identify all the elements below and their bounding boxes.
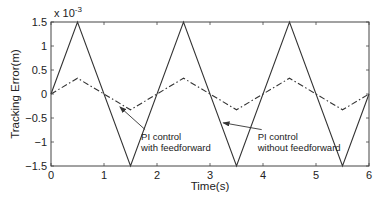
y-tick-label: 0.5 xyxy=(32,64,47,76)
x-tick-label: 2 xyxy=(154,169,160,181)
chart: 01234561.510.50−0.5−1−1.5 PI controlwith… xyxy=(0,0,387,200)
axes-layer: 01234561.510.50−0.5−1−1.5 xyxy=(25,16,372,181)
x-tick-label: 6 xyxy=(366,169,372,181)
annotation-arrow xyxy=(120,107,145,130)
y-tick-label: 1.5 xyxy=(32,16,47,28)
y-axis-label: Tracking Error(m) xyxy=(9,49,21,139)
y-tick-label: −1 xyxy=(34,136,47,148)
y-tick-label: 0 xyxy=(41,88,47,100)
y-tick-label: −0.5 xyxy=(25,112,47,124)
y-tick-label: −1.5 xyxy=(25,160,47,172)
x-tick-label: 0 xyxy=(48,169,54,181)
annotation-arrow xyxy=(223,123,261,130)
annotation-text: PI control xyxy=(258,131,298,142)
annotation-text: PI control xyxy=(141,131,181,142)
y-tick-label: 1 xyxy=(41,40,47,52)
annotation-text: without feedforward xyxy=(257,142,341,153)
x-tick-label: 4 xyxy=(260,169,266,181)
annotations-layer: PI controlwith feedforwardPI controlwith… xyxy=(120,107,341,153)
x-tick-label: 1 xyxy=(101,169,107,181)
x-axis-label: Time(s) xyxy=(191,180,230,192)
annotation-text: with feedforward xyxy=(140,142,211,153)
x-tick-label: 5 xyxy=(313,169,319,181)
y-scale-label: x 10-3 xyxy=(54,5,82,19)
